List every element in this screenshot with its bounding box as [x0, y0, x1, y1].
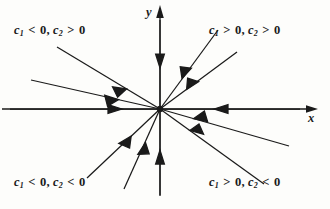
trajectory-q1-shallow	[160, 52, 237, 109]
q2-c1-operator: <	[27, 23, 36, 37]
q3-comma: ,	[46, 175, 49, 189]
trajectory-q2-shallow	[31, 80, 160, 109]
q4-c1-subscript: 1	[215, 181, 219, 190]
q4-comma: ,	[241, 175, 244, 189]
q1-c2-value: 0	[274, 23, 280, 37]
q1-c1-operator: >	[222, 23, 231, 37]
q1-c2-operator: >	[261, 23, 270, 37]
trajectory-q1-steep	[160, 30, 218, 109]
origin-equilibrium-point	[157, 106, 163, 112]
x-axis-label: x	[308, 111, 314, 126]
q1-comma: ,	[241, 23, 244, 37]
quadrant-4-condition-label: c1 > 0, c2 < 0	[209, 175, 280, 190]
q3-c1-subscript: 1	[20, 181, 24, 190]
quadrant-2-condition-label: c1 < 0, c2 > 0	[14, 23, 85, 38]
q2-c2-subscript: 2	[59, 29, 63, 38]
trajectory-q3-shallow	[87, 109, 160, 178]
trajectory-group	[10, 20, 300, 195]
q1-c2-subscript: 2	[254, 29, 258, 38]
q4-c1-operator: >	[222, 175, 231, 189]
q2-c2-value: 0	[79, 23, 85, 37]
q2-c1-subscript: 1	[20, 29, 24, 38]
trajectory-axis-pos-x	[160, 105, 300, 114]
q4-c2-value: 0	[274, 175, 280, 189]
trajectory-q3-steep	[124, 109, 160, 189]
q2-c2-operator: >	[66, 23, 75, 37]
quadrant-3-condition-label: c1 < 0, c2 < 0	[14, 175, 85, 190]
q3-c2-operator: <	[66, 175, 75, 189]
q3-c2-subscript: 2	[59, 181, 63, 190]
q4-c2-subscript: 2	[254, 181, 258, 190]
trajectory-axis-neg-x	[10, 105, 160, 114]
q2-comma: ,	[46, 23, 49, 37]
phase-portrait-figure: y x c1 < 0, c2 > 0 c1 > 0, c2 > 0 c1 < 0…	[0, 0, 330, 209]
trajectory-axis-pos-y	[156, 20, 165, 109]
trajectory-axis-neg-y	[156, 109, 165, 195]
trajectory-q4-steep	[160, 109, 264, 184]
y-axis-arrow-icon	[156, 5, 164, 18]
trajectory-q4-shallow	[160, 109, 289, 146]
q1-c1-subscript: 1	[215, 29, 219, 38]
quadrant-1-condition-label: c1 > 0, c2 > 0	[209, 23, 280, 38]
q3-c2-value: 0	[79, 175, 85, 189]
q3-c1-operator: <	[27, 175, 36, 189]
y-axis-label: y	[146, 5, 152, 20]
q4-c2-operator: <	[261, 175, 270, 189]
